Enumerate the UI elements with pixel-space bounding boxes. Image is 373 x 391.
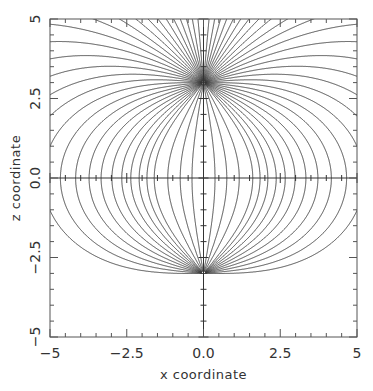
field-line-chart: −5−2.50.02.55 −5−2.50.02.55 x coordinate… [0, 0, 373, 391]
field-line [205, 80, 373, 136]
x-tick-label: 0.0 [192, 345, 214, 361]
y-tick-label: 0.0 [27, 167, 43, 189]
y-tick-label: −5 [27, 327, 43, 348]
y-axis-label: z coordinate [8, 135, 23, 221]
field-line [204, 3, 242, 82]
x-tick-labels: −5−2.50.02.55 [40, 345, 362, 361]
y-tick-label: 5 [27, 15, 43, 24]
x-tick-label: 2.5 [269, 345, 291, 361]
field-line [34, 80, 202, 136]
y-tick-labels: −5−2.50.02.55 [27, 15, 43, 348]
x-tick-label: −2.5 [110, 345, 144, 361]
y-tick-label: 2.5 [27, 87, 43, 109]
y-tick-label: −2.5 [27, 241, 43, 275]
x-tick-label: 5 [353, 345, 362, 361]
x-axis-label: x coordinate [160, 367, 247, 382]
field-line [165, 3, 203, 82]
